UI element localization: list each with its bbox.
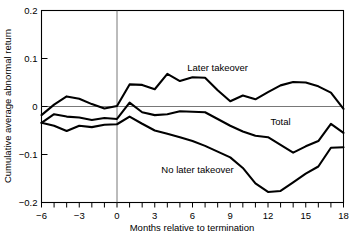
chart-background	[0, 0, 356, 236]
chart-figure: −6−30369121518 −0.2−0.100.10.2 Later tak…	[0, 0, 356, 236]
cumulative-abnormal-return-line-chart: −6−30369121518 −0.2−0.100.10.2 Later tak…	[0, 0, 356, 236]
x-tick-label: −6	[36, 210, 47, 221]
x-tick-label: 3	[152, 210, 157, 221]
x-tick-label: 12	[263, 210, 274, 221]
x-tick-label: 9	[228, 210, 233, 221]
series-label-total: Total	[271, 116, 291, 127]
y-tick-label: 0	[32, 101, 37, 112]
y-tick-label: 0.2	[24, 5, 37, 16]
x-tick-label: −3	[74, 210, 85, 221]
y-tick-label: −0.2	[19, 197, 38, 208]
x-tick-label: 6	[190, 210, 195, 221]
series-label-later-takeover: Later takeover	[187, 62, 248, 73]
x-tick-label: 0	[114, 210, 119, 221]
x-tick-label: 15	[300, 210, 311, 221]
y-tick-label: −0.1	[19, 149, 38, 160]
y-tick-label: 0.1	[24, 53, 37, 64]
x-axis-tick-labels: −6−30369121518	[36, 210, 349, 221]
x-axis-title: Months relative to termination	[130, 222, 255, 233]
y-axis-title: Cumulative average abnormal return	[2, 29, 13, 183]
x-tick-label: 18	[338, 210, 349, 221]
series-label-no-later-takeover: No later takeover	[161, 164, 233, 175]
